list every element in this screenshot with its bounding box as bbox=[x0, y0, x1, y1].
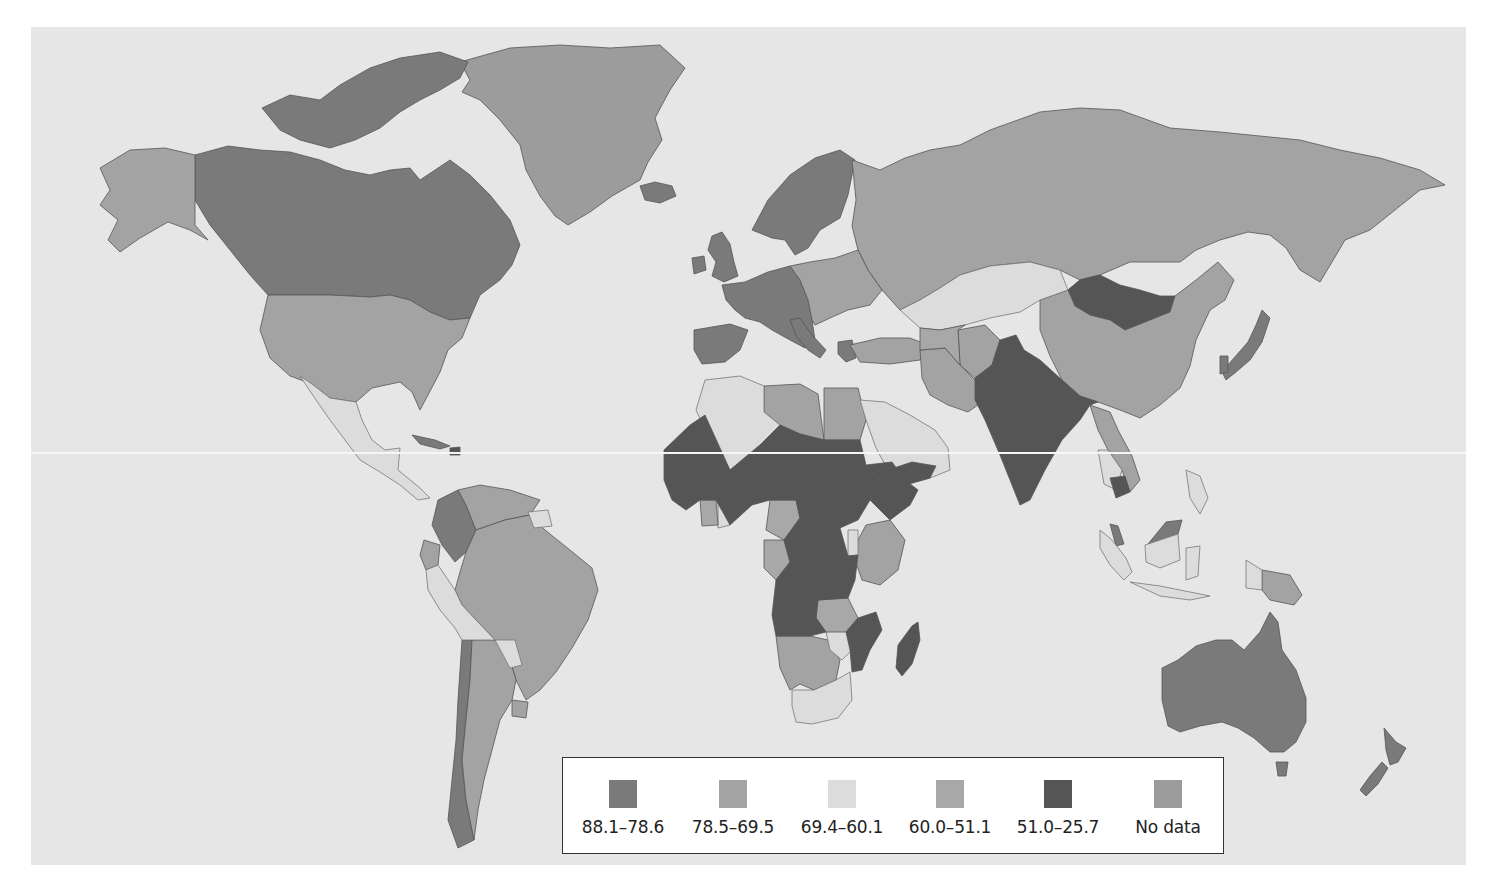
region-uruguay[interactable] bbox=[512, 700, 528, 718]
region-cote-divoire[interactable] bbox=[700, 500, 718, 526]
region-scandinavia[interactable] bbox=[752, 150, 855, 255]
legend-item-class-3: 69.4–60.1 bbox=[782, 758, 902, 853]
legend-swatch-class-2 bbox=[719, 780, 747, 808]
legend-label-class-3: 69.4–60.1 bbox=[782, 817, 902, 837]
legend-swatch-class-5 bbox=[1044, 780, 1072, 808]
region-australia[interactable] bbox=[1162, 612, 1306, 752]
map-legend: 88.1–78.6 78.5–69.5 69.4–60.1 60.0–51.1 … bbox=[562, 757, 1224, 854]
legend-label-class-5: 51.0–25.7 bbox=[998, 817, 1118, 837]
legend-swatch-no-data bbox=[1154, 780, 1182, 808]
legend-swatch-class-3 bbox=[828, 780, 856, 808]
map-canvas bbox=[31, 27, 1466, 865]
region-madagascar[interactable] bbox=[896, 622, 920, 676]
legend-item-class-4: 60.0–51.1 bbox=[890, 758, 1010, 853]
region-papua-new-guinea[interactable] bbox=[1262, 570, 1302, 605]
region-uganda[interactable] bbox=[848, 530, 858, 556]
region-indonesia[interactable] bbox=[1100, 530, 1262, 600]
region-canada-arctic[interactable] bbox=[262, 52, 468, 148]
region-south-korea[interactable] bbox=[1220, 356, 1228, 374]
legend-label-class-1: 88.1–78.6 bbox=[563, 817, 683, 837]
region-east-africa[interactable] bbox=[855, 520, 905, 585]
region-iceland[interactable] bbox=[640, 182, 676, 203]
region-iberia[interactable] bbox=[694, 324, 748, 364]
legend-label-class-4: 60.0–51.1 bbox=[890, 817, 1010, 837]
region-uk[interactable] bbox=[708, 232, 738, 282]
region-new-zealand[interactable] bbox=[1360, 728, 1406, 796]
region-argentina[interactable] bbox=[462, 640, 516, 840]
region-alaska[interactable] bbox=[100, 148, 208, 252]
scan-artifact-line bbox=[31, 452, 1466, 454]
legend-label-class-2: 78.5–69.5 bbox=[673, 817, 793, 837]
legend-swatch-class-1 bbox=[609, 780, 637, 808]
legend-item-class-1: 88.1–78.6 bbox=[563, 758, 683, 853]
legend-label-no-data: No data bbox=[1108, 817, 1228, 837]
region-tasmania[interactable] bbox=[1276, 762, 1288, 776]
region-egypt[interactable] bbox=[824, 388, 866, 440]
region-ireland[interactable] bbox=[692, 256, 706, 274]
region-japan[interactable] bbox=[1222, 310, 1270, 380]
region-canada[interactable] bbox=[195, 146, 520, 320]
region-cuba[interactable] bbox=[412, 435, 450, 449]
legend-item-class-2: 78.5–69.5 bbox=[673, 758, 793, 853]
region-turkey[interactable] bbox=[850, 338, 928, 364]
world-map bbox=[31, 27, 1466, 865]
legend-item-no-data: No data bbox=[1108, 758, 1228, 853]
region-russia[interactable] bbox=[852, 108, 1445, 310]
region-philippines[interactable] bbox=[1186, 470, 1208, 514]
legend-item-class-5: 51.0–25.7 bbox=[998, 758, 1118, 853]
legend-swatch-class-4 bbox=[936, 780, 964, 808]
